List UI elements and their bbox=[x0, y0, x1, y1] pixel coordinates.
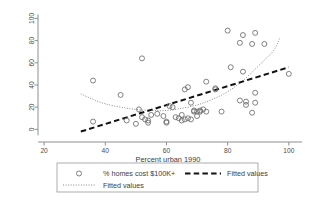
scatter-plot-figure: 020406080100 20406080100 Percent urban 1… bbox=[0, 0, 312, 206]
y-tick-label: 60 bbox=[28, 59, 35, 67]
data-point-marker bbox=[91, 119, 96, 124]
data-point-marker bbox=[182, 117, 187, 122]
data-point-marker bbox=[155, 111, 160, 116]
data-point-marker bbox=[118, 92, 123, 97]
axes bbox=[38, 14, 302, 142]
data-point-marker bbox=[185, 116, 190, 121]
data-point-marker bbox=[240, 33, 245, 38]
fitted-dotted-line bbox=[81, 38, 280, 110]
data-point-marker bbox=[240, 69, 245, 74]
data-point-marker bbox=[133, 121, 138, 126]
data-point-marker bbox=[250, 41, 255, 46]
x-tick-label: 100 bbox=[283, 147, 294, 154]
data-point-marker bbox=[179, 112, 184, 117]
chart-canvas: 020406080100 20406080100 Percent urban 1… bbox=[0, 0, 312, 206]
data-point-marker bbox=[170, 105, 175, 110]
data-point-marker bbox=[250, 110, 255, 115]
data-point-marker bbox=[188, 117, 193, 122]
y-tick-label: 0 bbox=[28, 127, 35, 131]
x-tick-label: 60 bbox=[163, 147, 171, 154]
data-point-marker bbox=[188, 100, 193, 105]
data-point-marker bbox=[140, 56, 145, 61]
data-point-marker bbox=[219, 109, 224, 114]
data-point-marker bbox=[253, 30, 258, 35]
data-point-marker bbox=[173, 115, 178, 120]
data-point-marker bbox=[262, 41, 267, 46]
chart-legend: % homes cost $100K+ Fitted values Fitted… bbox=[57, 163, 268, 192]
x-tick-label: 40 bbox=[102, 147, 110, 154]
data-point-marker bbox=[244, 102, 249, 107]
data-point-marker bbox=[253, 100, 258, 105]
data-point-marker bbox=[167, 104, 172, 109]
data-point-marker bbox=[253, 90, 258, 95]
data-point-marker bbox=[124, 118, 129, 123]
data-point-marker bbox=[149, 112, 154, 117]
data-point-marker bbox=[204, 79, 209, 84]
legend-label-fitted-dashed: Fitted values bbox=[227, 169, 268, 178]
data-point-marker bbox=[237, 98, 242, 103]
data-point-marker bbox=[91, 78, 96, 83]
data-point-marker bbox=[237, 40, 242, 45]
x-axis-ticks: 20406080100 bbox=[40, 142, 294, 154]
data-point-markers bbox=[91, 28, 292, 126]
data-point-marker bbox=[225, 28, 230, 33]
data-point-marker bbox=[161, 114, 166, 119]
x-tick-label: 80 bbox=[224, 147, 232, 154]
data-point-marker bbox=[286, 71, 291, 76]
y-axis-ticks: 020406080100 bbox=[28, 13, 38, 132]
y-tick-label: 100 bbox=[28, 13, 35, 24]
fitted-values-dotted-series bbox=[81, 38, 280, 110]
y-tick-label: 40 bbox=[28, 81, 35, 89]
legend-label-fitted-dotted: Fitted values bbox=[103, 181, 144, 190]
y-tick-label: 80 bbox=[28, 37, 35, 45]
x-tick-label: 20 bbox=[40, 147, 48, 154]
data-point-marker bbox=[228, 65, 233, 70]
y-tick-label: 20 bbox=[28, 103, 35, 111]
legend-label-homes: % homes cost $100K+ bbox=[103, 169, 175, 178]
